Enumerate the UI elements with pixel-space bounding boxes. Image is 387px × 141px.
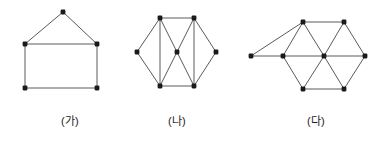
diagram-ga xyxy=(23,10,100,91)
graph-vertex-na-mid-left xyxy=(135,50,140,55)
graph-vertex-da-far-left xyxy=(249,54,254,59)
figure-caption-da: (다) xyxy=(276,112,356,128)
graph-edge-da-3 xyxy=(283,22,303,56)
graph-vertex-na-mid-right xyxy=(214,50,219,55)
graph-edge-na-4 xyxy=(177,18,194,52)
graph-edge-da-11 xyxy=(344,56,365,89)
graph-vertex-na-center xyxy=(175,50,180,55)
graph-vertex-na-bottom-left xyxy=(158,84,163,89)
graph-edge-ga-1 xyxy=(63,12,97,44)
graph-vertex-ga-upper-right xyxy=(95,42,100,47)
graph-vertex-na-top-left xyxy=(158,16,163,21)
graph-edge-na-1 xyxy=(137,18,160,52)
graph-edge-da-7 xyxy=(324,22,344,56)
graph-edge-da-6 xyxy=(303,22,324,56)
graph-edge-da-4 xyxy=(283,56,303,89)
figure-board: (가) (나) (다) xyxy=(0,0,387,141)
graph-vertex-da-top-left xyxy=(301,20,306,25)
diagram-da xyxy=(249,20,368,92)
graph-vertex-ga-upper-left xyxy=(23,42,28,47)
graph-edge-da-9 xyxy=(324,56,344,89)
graph-edge-na-9 xyxy=(177,52,194,86)
graph-edge-na-10 xyxy=(194,52,216,86)
graph-edge-da-1 xyxy=(251,22,303,56)
graph-vertex-ga-lower-left xyxy=(23,86,28,91)
graph-vertex-da-center xyxy=(322,54,327,59)
figure-caption-na: (나) xyxy=(137,112,217,128)
graph-vertex-da-mid-right xyxy=(363,54,368,59)
graph-vertex-na-bottom-right xyxy=(192,84,197,89)
graph-vertex-da-bottom-left xyxy=(301,87,306,92)
diagram-na xyxy=(135,16,219,89)
graph-edge-da-8 xyxy=(303,56,324,89)
graph-edge-na-2 xyxy=(160,18,177,52)
graph-edge-da-10 xyxy=(344,22,365,56)
graph-vertex-na-top-right xyxy=(192,16,197,21)
graph-edge-na-7 xyxy=(137,52,160,86)
graph-vertex-da-mid-left xyxy=(281,54,286,59)
graph-edge-na-8 xyxy=(160,52,177,86)
graph-edge-ga-0 xyxy=(25,12,63,44)
graph-vertex-da-top-right xyxy=(342,20,347,25)
graph-vertex-ga-apex xyxy=(61,10,66,15)
figure-caption-ga: (가) xyxy=(30,112,110,128)
graph-edge-na-5 xyxy=(194,18,216,52)
graph-vertex-ga-lower-right xyxy=(95,86,100,91)
graph-vertex-da-bottom-right xyxy=(342,87,347,92)
